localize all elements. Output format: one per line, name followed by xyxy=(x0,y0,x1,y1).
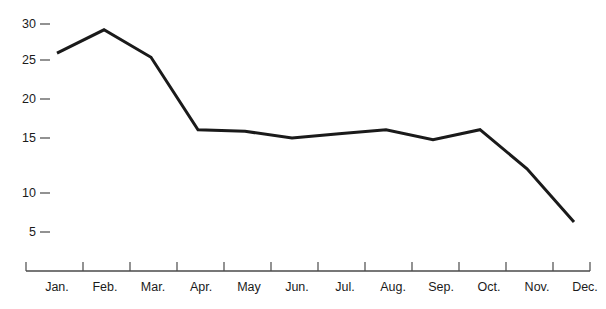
x-axis-ticks xyxy=(26,262,590,271)
y-axis-ticks xyxy=(40,24,50,232)
data-series-line xyxy=(57,30,574,222)
line-chart: 30 25 20 15 10 5 Jan. Feb. Mar. Apr. May… xyxy=(0,0,606,309)
plot-area xyxy=(0,0,606,309)
